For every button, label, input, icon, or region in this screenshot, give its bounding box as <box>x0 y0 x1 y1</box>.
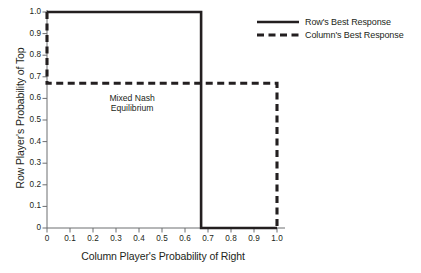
legend-label-column-best-response: Column's Best Response <box>305 30 404 40</box>
x-tick-label: 0.4 <box>127 235 151 243</box>
annotation-line-1: Mixed Nash <box>92 93 172 104</box>
x-tick-label: 0.7 <box>196 235 220 243</box>
x-tick-label: 0 <box>35 235 59 243</box>
best-response-chart: 00.10.20.30.40.50.60.70.80.91.0 00.10.20… <box>0 0 421 273</box>
chart-legend: Row's Best Response Column's Best Respon… <box>257 15 404 41</box>
x-axis-title: Column Player's Probability of Right <box>47 250 279 262</box>
x-tick-label: 0.8 <box>219 235 243 243</box>
x-tick-label: 0.1 <box>58 235 82 243</box>
x-tick-label: 1.0 <box>265 235 289 243</box>
x-tick-label: 0.2 <box>81 235 105 243</box>
legend-dashed-line-swatch <box>257 30 299 40</box>
x-tick-label: 0.3 <box>104 235 128 243</box>
legend-label-row-best-response: Row's Best Response <box>305 17 391 27</box>
mixed-nash-equilibrium-annotation: Mixed Nash Equilibrium <box>92 93 172 114</box>
legend-solid-line-swatch <box>257 17 299 27</box>
x-tick-label: 0.6 <box>173 235 197 243</box>
legend-item-column-best-response: Column's Best Response <box>257 28 404 41</box>
x-tick-label: 0.9 <box>242 235 266 243</box>
x-tick-label: 0.5 <box>150 235 174 243</box>
annotation-line-2: Equilibrium <box>92 103 172 114</box>
legend-item-row-best-response: Row's Best Response <box>257 15 404 28</box>
y-axis-title: Row Player's Probability of Top <box>14 0 28 238</box>
